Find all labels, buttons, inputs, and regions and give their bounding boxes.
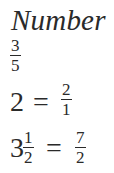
equation-lhs-whole: 3: [10, 134, 24, 162]
fraction-denominator: 2: [76, 149, 85, 166]
equals-sign: =: [33, 88, 49, 116]
equation-rhs-fraction: 7 2: [75, 129, 86, 166]
equation-lhs-whole: 2: [10, 88, 24, 116]
fraction-denominator: 1: [62, 101, 71, 118]
fraction-numerator: 3: [10, 37, 21, 54]
heading-number: Number: [11, 6, 106, 35]
fraction-denominator: 5: [11, 57, 20, 74]
fraction-numerator: 1: [23, 129, 34, 146]
fraction-denominator: 2: [24, 149, 33, 166]
fraction-numerator: 2: [61, 81, 72, 98]
fraction-numerator: 7: [75, 129, 86, 146]
equation-lhs-fraction: 1 2: [23, 129, 34, 166]
equals-sign: =: [46, 134, 62, 162]
equation-rhs-fraction: 2 1: [61, 81, 72, 118]
fraction-three-fifths: 3 5: [10, 37, 21, 74]
